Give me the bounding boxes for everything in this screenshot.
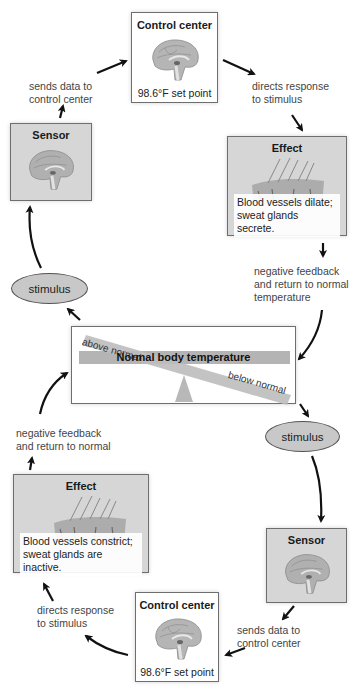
- arrow-feedback-to-balance: [299, 310, 322, 359]
- control-center-title: Control center: [136, 599, 218, 611]
- stimulus-ellipse-top: stimulus: [11, 273, 88, 304]
- stimulus-ellipse-bottom: stimulus: [265, 421, 340, 452]
- set-point-caption: 98.6°F set point: [132, 87, 217, 99]
- arrow-feedback-to-balance-lower: [40, 373, 67, 414]
- brain-icon: [150, 615, 206, 661]
- control-center-box-bottom: Control center 98.6°F set point: [135, 592, 219, 682]
- brain-icon: [280, 550, 334, 596]
- label-sends-data-top: sends data to control center: [29, 80, 93, 106]
- normal-body-temperature-label: Normal body temperature: [72, 351, 295, 363]
- brain-icon: [24, 146, 78, 192]
- label-negative-feedback-top: negative feedback and return to normal t…: [254, 265, 349, 304]
- label-sends-data-bottom: sends data to control center: [237, 624, 301, 650]
- set-point-caption: 98.6°F set point: [136, 666, 218, 678]
- balance-graphic: [72, 327, 297, 405]
- arrow-stimulus-to-sensor: [29, 207, 41, 268]
- arrow-sensor-to-sends-lower: [283, 606, 294, 619]
- effect-title: Effect: [14, 480, 148, 492]
- arrow-control-to-directs: [223, 60, 254, 74]
- effect-title: Effect: [228, 142, 346, 154]
- label-directs-response-top: directs response to stimulus: [252, 80, 329, 106]
- fulcrum-triangle: [175, 375, 193, 402]
- arrow-sends-to-control: [97, 61, 126, 73]
- arrow-balance-to-stimulus-lower: [300, 404, 308, 416]
- label-directs-response-bottom: directs response to stimulus: [37, 604, 114, 630]
- arrow-balance-to-stimulus: [68, 309, 80, 320]
- sensor-box-bottom: Sensor: [266, 528, 347, 603]
- arrow-directs-to-effect-lower: [44, 584, 53, 601]
- sensor-box-top: Sensor: [10, 123, 92, 201]
- arrow-stimulus-to-sensor-lower: [312, 456, 321, 521]
- arrow-effect-to-feedback-lower: [30, 458, 32, 470]
- effect-caption: Blood vessels dilate; sweat glands secre…: [234, 194, 340, 237]
- control-center-title: Control center: [132, 19, 217, 31]
- effect-box-bottom: Effect Blood vessels constrict; sweat gl…: [13, 474, 149, 573]
- balance-box: above normal Normal body temperature bel…: [71, 326, 296, 404]
- arrow-directs-to-effect: [292, 115, 302, 130]
- sensor-title: Sensor: [11, 129, 91, 141]
- control-center-box-top: Control center 98.6°F set point: [131, 12, 218, 103]
- arrow-control-to-directs-lower: [86, 636, 128, 655]
- brain-icon: [147, 36, 203, 82]
- label-negative-feedback-bottom: negative feedback and return to normal: [16, 427, 111, 453]
- sensor-title: Sensor: [267, 534, 346, 546]
- effect-box-top: Effect Blood vessels dilate; sweat gland…: [227, 136, 347, 236]
- arrow-sensor-up-to-sends: [60, 106, 63, 118]
- effect-caption: Blood vessels constrict; sweat glands ar…: [20, 533, 142, 576]
